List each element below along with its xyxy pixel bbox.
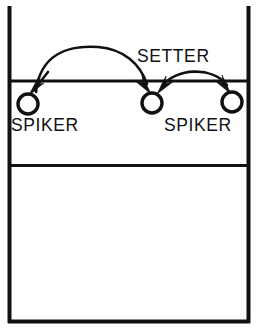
player-circle-setter[interactable]: [142, 93, 162, 113]
arrow-heads: [29, 75, 231, 95]
label-left-spiker: SPIKER: [11, 115, 79, 135]
arc-short-setter-to-right: [162, 72, 227, 86]
volleyball-diagram: SETTER SPIKER SPIKER: [0, 0, 261, 330]
arc-long-to-setter: [36, 47, 147, 92]
label-setter: SETTER: [137, 46, 210, 66]
arrowhead-setter-from-left: [134, 75, 151, 94]
position-labels: SETTER SPIKER SPIKER: [11, 46, 232, 135]
player-circle-left-spiker[interactable]: [18, 94, 38, 114]
player-circle-right-spiker[interactable]: [222, 92, 242, 112]
court-diagram-canvas: SETTER SPIKER SPIKER: [0, 0, 261, 330]
player-positions: [18, 92, 242, 114]
label-right-spiker: SPIKER: [164, 115, 232, 135]
